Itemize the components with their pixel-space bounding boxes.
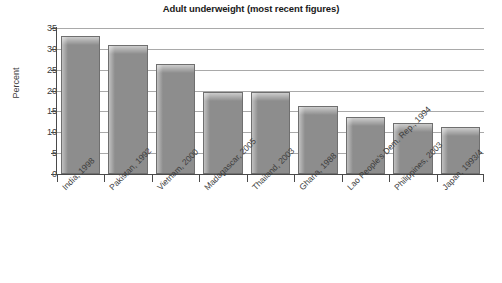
x-tick-mark <box>437 175 438 182</box>
x-tick-mark <box>342 175 343 182</box>
plot-area <box>57 28 484 174</box>
x-tick-mark <box>294 175 295 182</box>
bar <box>61 36 100 174</box>
bar-series <box>57 28 484 174</box>
x-tick-mark <box>247 175 248 182</box>
x-tick-mark <box>57 175 58 182</box>
bar-chart: Adult underweight (most recent figures) … <box>0 0 502 283</box>
y-axis-ticks: 05101520253035 <box>0 0 57 283</box>
x-axis: India, 1998Pakistan, 1992Vietnam, 2000Ma… <box>57 174 484 283</box>
x-tick-mark <box>152 175 153 182</box>
x-tick-mark <box>199 175 200 182</box>
x-tick-mark <box>483 175 484 182</box>
x-tick-mark <box>104 175 105 182</box>
chart-title: Adult underweight (most recent figures) <box>0 3 502 14</box>
x-tick-mark <box>389 175 390 182</box>
